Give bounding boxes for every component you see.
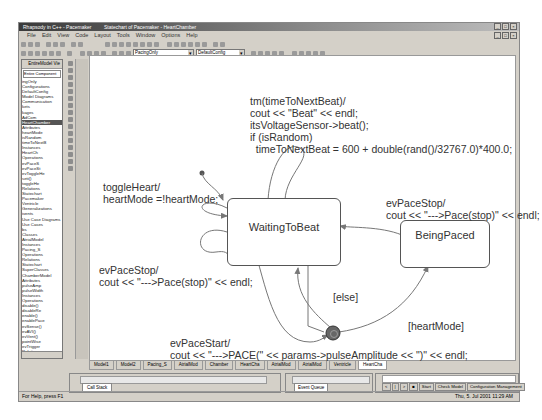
gen-icon[interactable] (202, 42, 207, 47)
copy-icon[interactable] (53, 42, 58, 47)
menu-file[interactable]: File (27, 31, 36, 39)
browser-horizontal-scrollbar[interactable] (22, 351, 62, 358)
run-icon[interactable] (181, 42, 186, 47)
termination-icon[interactable] (68, 110, 73, 115)
close-button[interactable]: × (510, 23, 517, 30)
tab-check-model[interactable]: Check Model (435, 383, 466, 391)
note-icon[interactable] (68, 152, 73, 157)
new-icon[interactable] (21, 42, 26, 47)
tab-atrialmod-2[interactable]: AtrialMod (267, 361, 296, 370)
tab-start[interactable]: Start (419, 383, 434, 391)
menu-tools[interactable]: Tools (117, 31, 130, 39)
default-transition-icon[interactable] (68, 82, 73, 87)
print-icon[interactable] (71, 42, 76, 47)
find-icon[interactable] (220, 42, 225, 47)
pacestop-self-transition-label[interactable]: evPaceStop/ cout << "--->Pace(stop)" << … (99, 264, 253, 288)
tab-atrialmod-3[interactable]: AtrialMod (298, 361, 327, 370)
diagram-tabs: Model1 Model2 Pacing_S AtrialMod Chamber… (89, 361, 516, 370)
tab-model2[interactable]: Model2 (116, 361, 141, 370)
select-tool-icon[interactable] (68, 61, 73, 66)
document-title: Statechart of Pacemaker - HeartChamber (104, 24, 196, 30)
animation-output[interactable] (382, 375, 516, 383)
make-icon[interactable] (167, 42, 172, 47)
diagram-icon[interactable] (105, 42, 110, 47)
tab-chamber[interactable]: Chamber (205, 361, 234, 370)
report-icon[interactable] (213, 42, 218, 47)
timeout-transition-label[interactable]: tm(timeToNextBeat)/ cout << "Beat" << en… (250, 95, 512, 155)
state-being-paced[interactable]: BeingPaced (400, 220, 490, 268)
status-datetime: Thu, 5. Jul 2001 11:29 AM (455, 392, 513, 401)
pacestart-transition-label[interactable]: evPaceStart/ cout << "--->PACE(" << para… (170, 337, 468, 361)
go-event-icon[interactable] (42, 51, 47, 56)
heartmode-guard-label[interactable]: [heartMode] (408, 320, 464, 332)
component-icon[interactable] (140, 42, 145, 47)
paste-icon[interactable] (60, 42, 65, 47)
usecase-icon[interactable] (133, 42, 138, 47)
junction-icon[interactable] (68, 117, 73, 122)
transition-tool-icon[interactable] (68, 75, 73, 80)
history-connector-icon[interactable] (68, 103, 73, 108)
menu-edit[interactable]: Edit (42, 31, 51, 39)
thread-icon[interactable] (80, 51, 85, 56)
tab-heartchamber-active[interactable]: HeartCha (358, 361, 387, 370)
pacestop-transition-label[interactable]: evPaceStop/ cout << "--->Pace(stop)" << … (386, 197, 540, 221)
menu-bar: File Edit View Code Layout Tools Window … (19, 31, 519, 39)
code-icon[interactable] (188, 42, 193, 47)
help-icon[interactable] (78, 42, 83, 47)
else-guard-label[interactable]: [else] (333, 291, 358, 303)
class-icon[interactable] (112, 42, 117, 47)
tab-heartchamber[interactable]: HeartCha (235, 361, 264, 370)
menu-options[interactable]: Options (161, 31, 180, 39)
join-icon[interactable] (68, 138, 73, 143)
maximize-button[interactable]: □ (502, 23, 509, 30)
tab-configuration-management[interactable]: Configuration Management (467, 383, 525, 391)
menu-code[interactable]: Code (75, 31, 88, 39)
deploy-icon[interactable] (154, 42, 159, 47)
check-icon[interactable] (195, 42, 200, 47)
scroll-left-button[interactable]: < (382, 383, 391, 391)
stop-button[interactable]: ■ (409, 383, 418, 391)
menu-window[interactable]: Window (136, 31, 156, 39)
cut-icon[interactable] (46, 42, 51, 47)
sequence-icon[interactable] (126, 42, 131, 47)
status-help-text: For Help, press F1 (22, 392, 63, 401)
diagram-connector-icon[interactable] (68, 124, 73, 129)
tab-atrialmod[interactable]: AtrialMod (174, 361, 203, 370)
browser-filter-select[interactable]: Entire Component (23, 70, 61, 78)
tab-model1[interactable]: Model1 (89, 361, 114, 370)
tab-pacing[interactable]: Pacing_S (143, 361, 172, 370)
build-icon[interactable] (174, 42, 179, 47)
model-browser: EntireModel Vie Entire Component ingOnly… (21, 59, 63, 359)
minimize-button[interactable]: _ (494, 23, 501, 30)
menu-help[interactable]: Help (186, 31, 197, 39)
quit-icon[interactable] (56, 51, 61, 56)
scroll-right-button[interactable]: > (400, 383, 409, 391)
animation-pane: < | > ■ Start Check Model Configuration … (375, 373, 519, 393)
vertical-splitter[interactable] (75, 59, 88, 359)
state-tool-icon[interactable] (68, 68, 73, 73)
go-icon[interactable] (28, 51, 33, 56)
state-waiting-to-beat[interactable]: WaitingToBeat (227, 198, 341, 266)
tab-ventricle[interactable]: Ventricle (329, 361, 356, 370)
menu-layout[interactable]: Layout (94, 31, 111, 39)
fork-icon[interactable] (68, 145, 73, 150)
toggle-transition-label[interactable]: toggleHeart/ heartMode =!heartMode; (103, 181, 218, 205)
dependency-icon[interactable] (68, 166, 73, 171)
open-icon[interactable] (28, 42, 33, 47)
scroll-divider-button[interactable]: | (392, 383, 399, 391)
go-step-icon[interactable] (21, 51, 26, 56)
arrow-up-icon[interactable] (67, 51, 72, 56)
condition-connector-icon[interactable] (68, 96, 73, 101)
and-line-icon[interactable] (68, 89, 73, 94)
go-idle-icon[interactable] (35, 51, 40, 56)
grid-icon[interactable] (147, 42, 152, 47)
statechart-canvas[interactable]: WaitingToBeat BeingPaced tm(timeToNextBe… (89, 55, 516, 361)
break-icon[interactable] (49, 51, 54, 56)
browser-tree-item[interactable]: Use Case Diagrams (22, 217, 62, 222)
stub-icon[interactable] (68, 131, 73, 136)
title-bar[interactable]: Rhapsody in C++ - Pacemaker Statechart o… (19, 23, 519, 31)
anchor-icon[interactable] (68, 159, 73, 164)
object-icon[interactable] (119, 42, 124, 47)
save-icon[interactable] (35, 42, 40, 47)
menu-view[interactable]: View (57, 31, 69, 39)
